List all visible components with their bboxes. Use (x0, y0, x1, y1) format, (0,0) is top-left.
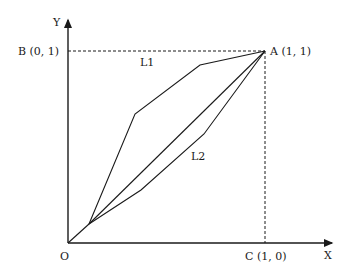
diagram-svg: Y X O B (0, 1) A (1, 1) C (1, 0) L1 L2 (0, 0, 350, 279)
curve-l2-label: L2 (191, 150, 205, 163)
diagonal-line (89, 51, 265, 224)
x-axis-label: X (324, 249, 332, 262)
point-b-label: B (0, 1) (18, 45, 59, 58)
origin-label: O (60, 250, 69, 263)
curve-l1-label: L1 (140, 56, 154, 69)
origin-segment (68, 224, 89, 243)
point-a-label: A (1, 1) (269, 45, 311, 58)
point-c-label: C (1, 0) (245, 250, 287, 263)
diagram-canvas: Y X O B (0, 1) A (1, 1) C (1, 0) L1 L2 (0, 0, 350, 279)
y-axis-label: Y (52, 16, 61, 29)
